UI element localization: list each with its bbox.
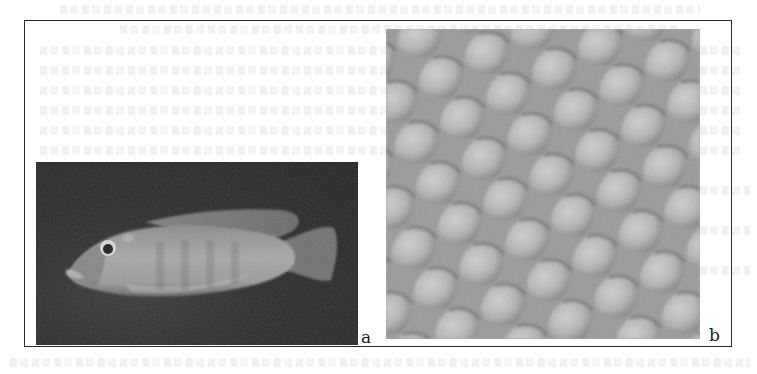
fish-photo-panel <box>36 162 358 345</box>
fish-photo <box>36 162 358 345</box>
scale-texture-panel <box>386 29 700 339</box>
panel-label-b: b <box>709 327 720 344</box>
scale-texture <box>386 29 700 339</box>
panel-label-a: a <box>361 329 371 346</box>
